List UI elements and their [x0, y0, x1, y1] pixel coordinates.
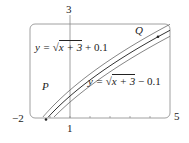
lower-eq-prefix: y = [88, 75, 106, 87]
x-min-label: −2 [12, 113, 24, 124]
lower-eq-suffix: − 0.1 [135, 75, 160, 87]
upper-eq-radicand: x + 3 [59, 40, 82, 53]
upper-equation: y = √x + 3 + 0.1 [35, 42, 108, 53]
lower-eq-radicand: x + 3 [112, 74, 135, 87]
x-max-label: 5 [174, 111, 180, 122]
lower-equation: y = √x + 3 − 0.1 [88, 76, 161, 87]
point-p-label: P [42, 81, 49, 92]
upper-eq-suffix: + 0.1 [82, 41, 107, 53]
plot [0, 0, 189, 143]
sqrt-sign: √ [53, 41, 59, 53]
point-q [157, 35, 160, 38]
sqrt-sign: √ [106, 75, 112, 87]
point-p [45, 118, 48, 121]
x-one-label: 1 [67, 123, 73, 134]
point-q-label: Q [135, 25, 143, 36]
curves [43, 24, 170, 117]
upper-eq-prefix: y = [35, 41, 53, 53]
y-max-label: 3 [66, 4, 72, 15]
plot-frame [30, 24, 170, 118]
